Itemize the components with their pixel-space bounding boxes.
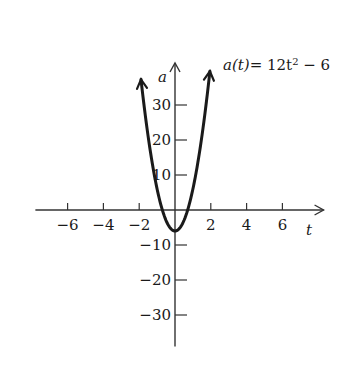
y-tick-label: −30 (139, 306, 171, 324)
y-tick-label: −10 (139, 236, 171, 254)
chart: −6−4−2246−30−20−10102030 a(t)= 12t2 − 6 … (0, 0, 345, 380)
y-axis-label: a (158, 68, 167, 86)
x-tick-label: 2 (206, 216, 216, 234)
y-tick-label: −20 (139, 271, 171, 289)
y-tick-label: 30 (152, 96, 171, 114)
x-tick-label: −6 (57, 216, 79, 234)
equation-label: a(t)= 12t2 − 6 (223, 56, 330, 75)
x-axis-label: t (306, 221, 313, 239)
x-tick-label: −4 (92, 216, 114, 234)
x-tick-label: 6 (278, 216, 288, 234)
x-tick-label: 4 (242, 216, 252, 234)
y-tick-label: 20 (152, 131, 171, 149)
x-tick-label: −2 (128, 216, 150, 234)
